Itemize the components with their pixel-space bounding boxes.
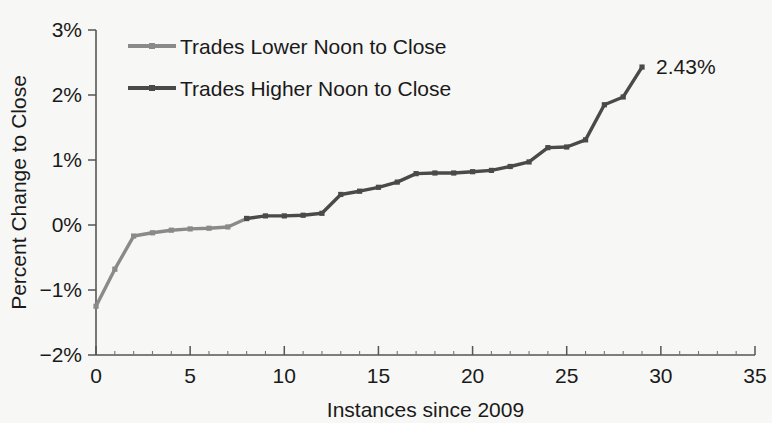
legend-marker-0 xyxy=(149,43,155,49)
data-point xyxy=(150,230,155,235)
data-point xyxy=(508,164,513,169)
legend-marker-1 xyxy=(149,85,155,91)
data-point xyxy=(451,170,456,175)
y-tick-label: 2% xyxy=(52,83,82,106)
y-tick-label: 0% xyxy=(52,213,82,236)
x-tick-label-group: 05101520253035 xyxy=(90,364,767,387)
data-point xyxy=(244,216,249,221)
data-point xyxy=(357,189,362,194)
chart-container: −2%−1%0%1%2%3% Percent Change to Close 0… xyxy=(0,0,772,423)
x-axis-title: Instances since 2009 xyxy=(327,398,524,421)
data-point xyxy=(602,102,607,107)
data-point xyxy=(470,169,475,174)
y-tick-label: 3% xyxy=(52,18,82,41)
x-tick-label: 35 xyxy=(743,364,766,387)
data-point xyxy=(432,170,437,175)
y-axis: −2%−1%0%1%2%3% Percent Change to Close xyxy=(7,18,96,366)
data-point xyxy=(564,144,569,149)
legend-label-1: Trades Higher Noon to Close xyxy=(180,77,451,100)
data-point xyxy=(621,94,626,99)
data-point xyxy=(639,64,644,69)
data-point xyxy=(489,168,494,173)
x-tick-label: 25 xyxy=(555,364,578,387)
data-point xyxy=(225,224,230,229)
data-point xyxy=(526,159,531,164)
legend-label-0: Trades Lower Noon to Close xyxy=(180,35,447,58)
x-tick-label: 0 xyxy=(90,364,102,387)
y-tick-label-group: −2%−1%0%1%2%3% xyxy=(39,18,82,366)
x-tick-label: 20 xyxy=(461,364,484,387)
data-point xyxy=(376,185,381,190)
data-point xyxy=(169,228,174,233)
chart-legend: Trades Lower Noon to CloseTrades Higher … xyxy=(128,35,451,100)
x-tick-label: 30 xyxy=(649,364,672,387)
data-point xyxy=(338,192,343,197)
series-group xyxy=(93,64,644,308)
data-point xyxy=(263,213,268,218)
y-tick-label: −1% xyxy=(39,278,82,301)
data-point xyxy=(545,145,550,150)
y-tick-label: 1% xyxy=(52,148,82,171)
data-point xyxy=(413,171,418,176)
final-value-label: 2.43% xyxy=(656,55,716,78)
data-point xyxy=(93,304,98,309)
data-point xyxy=(131,233,136,238)
y-tick-label: −2% xyxy=(39,343,82,366)
data-point xyxy=(301,213,306,218)
data-point xyxy=(112,267,117,272)
data-point xyxy=(206,226,211,231)
x-tick-group xyxy=(96,346,755,355)
line-chart: −2%−1%0%1%2%3% Percent Change to Close 0… xyxy=(0,0,772,423)
x-axis: 05101520253035 Instances since 2009 xyxy=(90,346,767,421)
annotation-group: 2.43% xyxy=(656,55,716,78)
y-axis-title: Percent Change to Close xyxy=(7,75,30,310)
x-tick-label: 5 xyxy=(184,364,196,387)
x-tick-label: 10 xyxy=(273,364,296,387)
data-point xyxy=(188,226,193,231)
data-point xyxy=(583,137,588,142)
data-point xyxy=(395,180,400,185)
data-point xyxy=(319,211,324,216)
data-point xyxy=(282,213,287,218)
x-tick-label: 15 xyxy=(367,364,390,387)
